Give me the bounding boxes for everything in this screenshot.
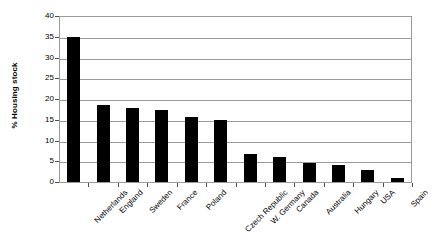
y-axis-tick-mark xyxy=(55,120,59,121)
x-axis-tick-labels: NetherlandsEnglandSwedenFrancePolandCzec… xyxy=(59,188,434,252)
bar xyxy=(273,157,286,182)
x-axis-tick-mark xyxy=(177,183,178,187)
y-axis-tick-label: 20 xyxy=(33,95,54,103)
y-axis-tick-mark xyxy=(55,141,59,142)
y-axis-tick-mark xyxy=(55,99,59,100)
bar xyxy=(303,163,316,183)
x-axis-tick-mark xyxy=(353,183,354,187)
bar xyxy=(155,110,168,182)
bar-chart: % Housing stock 0510152025303540 Netherl… xyxy=(0,0,434,252)
x-axis-tick-label: Sweden xyxy=(147,188,174,215)
x-axis-tick-label: Poland xyxy=(205,188,229,212)
y-axis-tick-label: 40 xyxy=(33,12,54,20)
x-axis-tick-label: USA xyxy=(379,188,397,206)
x-axis-tick-label: Hungary xyxy=(353,188,381,216)
bar xyxy=(332,165,345,182)
y-axis-tick-mark xyxy=(55,37,59,38)
x-axis-tick-mark xyxy=(147,183,148,187)
y-axis-title-label: % Housing stock xyxy=(11,62,20,128)
bar xyxy=(97,105,110,182)
y-axis-tick-label: 0 xyxy=(33,178,54,186)
y-axis-title: % Housing stock xyxy=(0,0,30,190)
x-axis-tick-mark xyxy=(294,183,295,187)
x-axis-tick-label: Spain xyxy=(409,188,430,209)
y-axis-tick-mark xyxy=(55,16,59,17)
x-axis-tick-mark xyxy=(265,183,266,187)
y-axis-tick-label: 10 xyxy=(33,137,54,145)
x-axis-tick-mark xyxy=(412,183,413,187)
bar xyxy=(244,154,257,182)
y-axis-tick-mark xyxy=(55,161,59,162)
y-axis-tick-label: 25 xyxy=(33,74,54,82)
y-axis-tick-mark xyxy=(55,78,59,79)
bar xyxy=(67,37,80,182)
x-axis-tick-mark xyxy=(383,183,384,187)
x-axis-tick-mark xyxy=(206,183,207,187)
y-axis-tick-label: 15 xyxy=(33,116,54,124)
y-axis-tick-mark xyxy=(55,182,59,183)
x-axis-tick-label: Australia xyxy=(324,188,352,216)
y-axis-tick-mark xyxy=(55,58,59,59)
x-axis-tick-mark xyxy=(88,183,89,187)
x-axis-tick-mark xyxy=(236,183,237,187)
y-axis-tick-labels: 0510152025303540 xyxy=(33,0,54,252)
y-axis-tick-label: 30 xyxy=(33,54,54,62)
bar xyxy=(391,178,404,182)
x-axis-tick-mark xyxy=(324,183,325,187)
bar xyxy=(361,170,374,182)
bars-layer xyxy=(59,16,412,182)
x-axis-tick-mark xyxy=(118,183,119,187)
y-axis-tick-label: 5 xyxy=(33,157,54,165)
y-axis-tick-label: 35 xyxy=(33,33,54,41)
bar xyxy=(185,117,198,182)
bar xyxy=(214,120,227,182)
bar xyxy=(126,108,139,182)
x-axis-tick-label: France xyxy=(175,188,199,212)
